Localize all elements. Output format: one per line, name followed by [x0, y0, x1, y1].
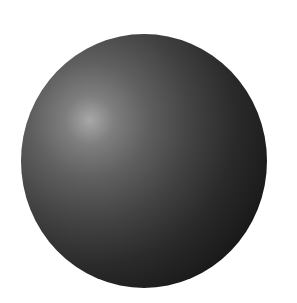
sphere: [21, 34, 267, 288]
image-canvas: [0, 0, 297, 303]
